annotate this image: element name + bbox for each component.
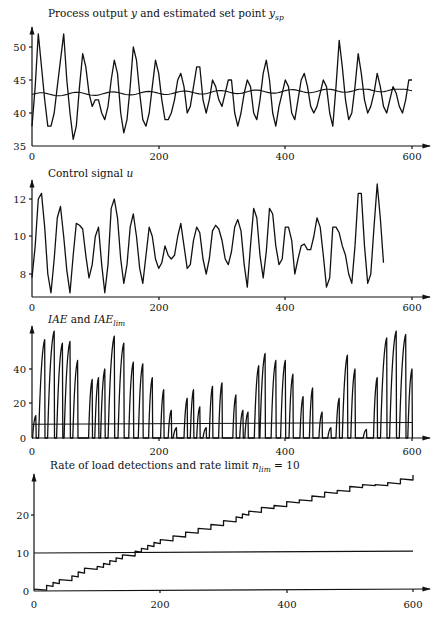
y-ticks: 12 10 8 xyxy=(13,194,32,280)
svg-text:200: 200 xyxy=(149,151,168,162)
svg-text:400: 400 xyxy=(277,599,296,610)
svg-text:0: 0 xyxy=(29,151,35,162)
svg-text:400: 400 xyxy=(275,446,294,457)
panel-title: Control signal u xyxy=(48,167,134,179)
svg-text:10: 10 xyxy=(13,231,26,242)
svg-text:35: 35 xyxy=(13,141,26,152)
svg-text:10: 10 xyxy=(16,548,29,559)
x-ticks: 0 200 400 600 xyxy=(29,438,422,457)
y-ticks: 20 10 0 xyxy=(16,510,34,597)
svg-text:0: 0 xyxy=(20,433,26,444)
svg-text:600: 600 xyxy=(402,446,421,457)
panel-title: Process output y and estimated set point… xyxy=(48,7,284,22)
x-ticks: 0 200 400 600 xyxy=(31,589,423,610)
svg-text:600: 600 xyxy=(403,599,422,610)
svg-text:50: 50 xyxy=(13,42,26,53)
svg-text:8: 8 xyxy=(20,269,26,280)
svg-text:0: 0 xyxy=(31,599,37,610)
svg-text:600: 600 xyxy=(402,151,421,162)
panel-title: Rate of load detections and rate limit n… xyxy=(50,459,300,474)
svg-text:0: 0 xyxy=(23,586,29,597)
svg-text:200: 200 xyxy=(150,599,169,610)
svg-text:40: 40 xyxy=(13,364,26,375)
x-ticks: 0 200 400 600 xyxy=(29,146,422,162)
panel-control-signal: Control signal u 12 10 8 0 200 400 600 xyxy=(13,167,430,313)
series-u xyxy=(32,184,384,293)
series-n-lim xyxy=(34,551,413,553)
x-axis xyxy=(34,589,430,591)
svg-text:20: 20 xyxy=(13,398,26,409)
y-ticks: 50 45 40 35 xyxy=(13,42,32,152)
svg-text:40: 40 xyxy=(13,108,26,119)
x-ticks: 0 200 400 600 xyxy=(29,297,422,313)
series-y xyxy=(32,34,412,140)
series-iae xyxy=(32,331,412,438)
svg-text:400: 400 xyxy=(275,302,294,313)
panel-load-detections: Rate of load detections and rate limit n… xyxy=(16,459,430,610)
svg-text:200: 200 xyxy=(149,302,168,313)
svg-text:20: 20 xyxy=(16,510,29,521)
panel-process-output: Process output y and estimated set point… xyxy=(13,7,430,162)
svg-text:0: 0 xyxy=(29,446,35,457)
svg-text:0: 0 xyxy=(29,302,35,313)
panel-title: IAE and IAElim xyxy=(47,313,125,328)
series-load-detections xyxy=(34,475,413,590)
svg-text:400: 400 xyxy=(275,151,294,162)
panel-iae: IAE and IAElim 40 20 0 0 200 400 600 xyxy=(13,313,430,457)
y-ticks: 40 20 0 xyxy=(13,364,32,444)
svg-text:200: 200 xyxy=(149,446,168,457)
figure: Process output y and estimated set point… xyxy=(0,0,446,618)
svg-text:600: 600 xyxy=(402,302,421,313)
svg-text:12: 12 xyxy=(13,194,26,205)
svg-text:45: 45 xyxy=(13,75,26,86)
